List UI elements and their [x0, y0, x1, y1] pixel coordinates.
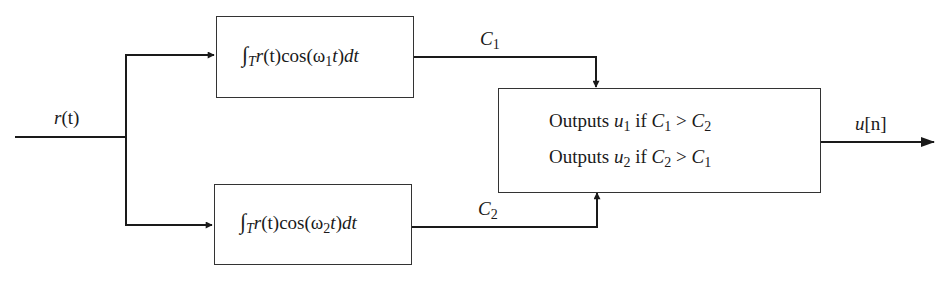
omega-subscript: 1 [325, 54, 332, 69]
output-index: [n] [865, 113, 887, 134]
input-label-arg: (t) [61, 107, 79, 128]
rule-op: > [676, 146, 687, 167]
c2-sub: 2 [491, 207, 498, 222]
rule-u: u [614, 146, 624, 167]
rule-b: C [691, 146, 704, 167]
output-u: u [855, 113, 865, 134]
rule-u: u [614, 110, 624, 131]
rule-op: > [676, 110, 687, 131]
integral-subscript: T [246, 221, 254, 236]
rule-a: C [652, 146, 665, 167]
integral-subscript: T [248, 54, 256, 69]
input-label: r(t) [54, 107, 79, 129]
c1-sub: 1 [493, 37, 500, 52]
rule-b: C [691, 110, 704, 131]
correlator-1-expression: ∫Tr(t)cos(ω1t)dt [242, 42, 359, 68]
expr-t: (t) [261, 212, 279, 233]
decision-block [498, 88, 821, 193]
expr-dt: dt [342, 212, 357, 233]
rule-if: if [635, 146, 647, 167]
rule-a-sub: 1 [664, 119, 671, 134]
c1-main: C [480, 28, 493, 49]
c2-main: C [478, 198, 491, 219]
rule-b-sub: 2 [704, 119, 711, 134]
rule-if: if [635, 110, 647, 131]
rule-word: Outputs [549, 146, 609, 167]
c2-wire [411, 193, 597, 227]
expr-cos: cos(ω [281, 45, 325, 66]
c1-wire [413, 57, 596, 87]
decision-rule-1: Outputs u1 if C1 > C2 [549, 110, 711, 132]
rule-b-sub: 1 [704, 155, 711, 170]
c2-label: C2 [478, 198, 498, 220]
rule-a-sub: 2 [664, 155, 671, 170]
correlator-2-expression: ∫Tr(t)cos(ω2t)dt [240, 209, 357, 235]
c1-label: C1 [480, 28, 500, 50]
rule-u-sub: 2 [623, 155, 630, 170]
omega-subscript: 2 [323, 221, 330, 236]
decision-rule-2: Outputs u2 if C2 > C1 [549, 146, 711, 168]
rule-word: Outputs [549, 110, 609, 131]
expr-t: (t) [263, 45, 281, 66]
output-label: u[n] [855, 113, 887, 135]
rule-a: C [652, 110, 665, 131]
rule-u-sub: 1 [623, 119, 630, 134]
expr-cos: cos(ω [279, 212, 323, 233]
expr-dt: dt [344, 45, 359, 66]
